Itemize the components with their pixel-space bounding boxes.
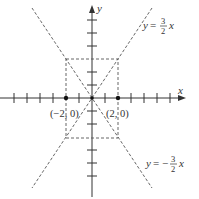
point-label-neg-2-0: (−2, 0): [50, 108, 79, 120]
asymptote-label-positive: y = 3 2 x: [142, 16, 174, 36]
asymptote-label-positive-eq: =: [150, 19, 156, 31]
asymptote-label-positive-var: x: [168, 19, 174, 31]
y-axis-arrow-icon: [89, 5, 95, 13]
point-neg-2-0: [64, 96, 68, 100]
hyperbola-diagram: y x (−2, 0) (2, 0) y = 3 2 x y = − 3 2 x: [0, 0, 199, 199]
point-2-0: [116, 96, 120, 100]
y-axis: [87, 5, 97, 197]
origin-point: [90, 96, 94, 100]
asymptote-label-negative: y = − 3 2 x: [145, 154, 184, 174]
x-axis-label: x: [177, 84, 183, 96]
asymptote-label-negative-num: 3: [171, 154, 175, 164]
asymptote-label-negative-eq: = −: [153, 157, 168, 169]
y-axis-label: y: [96, 2, 102, 14]
asymptote-label-positive-num: 3: [161, 16, 165, 26]
asymptote-label-positive-lhs: y: [142, 19, 148, 31]
asymptote-label-positive-den: 2: [161, 26, 165, 36]
asymptote-label-negative-den: 2: [171, 164, 175, 174]
asymptote-label-negative-lhs: y: [145, 157, 151, 169]
asymptote-label-negative-var: x: [178, 157, 184, 169]
point-label-2-0: (2, 0): [106, 108, 129, 120]
